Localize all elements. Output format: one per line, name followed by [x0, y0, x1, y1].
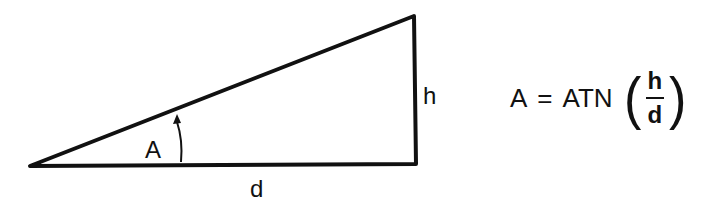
height-label: h — [423, 84, 436, 108]
arrow-head-icon — [173, 114, 181, 124]
open-paren: ( — [624, 69, 641, 127]
numerator: h — [648, 67, 663, 95]
close-paren: ) — [669, 69, 686, 127]
fraction: h d — [646, 67, 664, 129]
distance-label: d — [250, 177, 263, 201]
fraction-bar — [646, 97, 664, 99]
arctangent-formula: A = ATN ( h d ) — [510, 66, 687, 130]
angle-label: A — [145, 138, 161, 162]
formula-equals: = — [537, 83, 552, 114]
denominator: d — [648, 101, 663, 129]
triangle-outline — [30, 16, 416, 166]
angle-arc-arrow — [177, 122, 182, 162]
formula-lhs: A — [510, 83, 527, 114]
formula-function: ATN — [563, 83, 613, 114]
